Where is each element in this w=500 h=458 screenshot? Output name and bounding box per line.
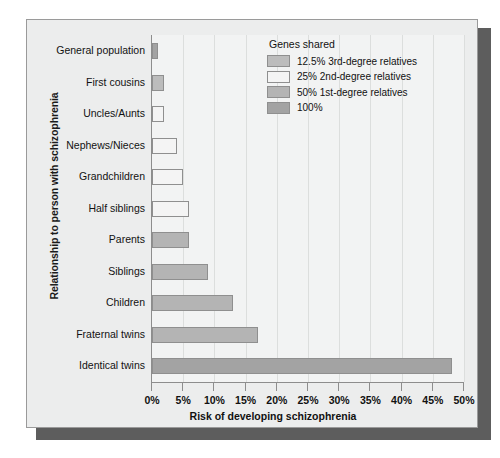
legend-item: 100%: [267, 102, 467, 114]
x-tick-label: 25%: [297, 394, 318, 406]
chart-row: Fraternal twins: [27, 319, 479, 351]
legend-swatch: [267, 71, 290, 83]
x-tick-label: 50%: [453, 394, 474, 406]
axis-tick: [401, 383, 402, 391]
chart-page: Relationship to person with schizophreni…: [0, 0, 500, 458]
bar: [152, 138, 177, 154]
x-tick-label: 20%: [266, 394, 287, 406]
category-label: Parents: [0, 224, 145, 256]
bar: [152, 201, 189, 217]
x-tick-label: 10%: [204, 394, 225, 406]
axis-tick: [432, 383, 433, 391]
chart-row: Nephews/Nieces: [27, 130, 479, 162]
legend-label: 12.5% 3rd-degree relatives: [297, 56, 417, 67]
x-tick-label: 30%: [329, 394, 350, 406]
bar: [152, 75, 164, 91]
axis-tick: [463, 383, 464, 391]
x-tick-label: 15%: [235, 394, 256, 406]
legend-swatch: [267, 86, 290, 98]
legend-items: 12.5% 3rd-degree relatives25% 2nd-degree…: [267, 55, 467, 114]
legend-label: 50% 1st-degree relatives: [297, 87, 408, 98]
category-label: Children: [0, 287, 145, 319]
legend-label: 25% 2nd-degree relatives: [297, 71, 411, 82]
bar: [152, 327, 258, 343]
category-label: Nephews/Nieces: [0, 130, 145, 162]
chart-row: Grandchildren: [27, 161, 479, 193]
chart-panel: Relationship to person with schizophreni…: [26, 19, 478, 428]
bar: [152, 358, 452, 374]
bar: [152, 43, 158, 59]
legend-item: 50% 1st-degree relatives: [267, 86, 467, 98]
legend-item: 25% 2nd-degree relatives: [267, 71, 467, 83]
axis-tick: [213, 383, 214, 391]
category-label: Fraternal twins: [0, 319, 145, 351]
legend-label: 100%: [297, 102, 323, 113]
category-label: Grandchildren: [0, 161, 145, 193]
axis-tick: [151, 383, 152, 391]
chart-row: Children: [27, 287, 479, 319]
x-tick-label: 0%: [144, 394, 159, 406]
category-label: Uncles/Aunts: [0, 98, 145, 130]
legend: Genes shared 12.5% 3rd-degree relatives2…: [267, 38, 467, 117]
bar: [152, 232, 189, 248]
legend-title: Genes shared: [267, 38, 467, 50]
chart-row: Identical twins: [27, 350, 479, 382]
axis-tick: [182, 383, 183, 391]
axis-tick: [276, 383, 277, 391]
axis-tick: [245, 383, 246, 391]
category-label: First cousins: [0, 67, 145, 99]
x-tick-label: 45%: [422, 394, 443, 406]
x-tick-label: 40%: [391, 394, 412, 406]
bar: [152, 169, 183, 185]
legend-item: 12.5% 3rd-degree relatives: [267, 55, 467, 67]
axis-tick: [369, 383, 370, 391]
category-label: Identical twins: [0, 350, 145, 382]
axis-tick: [307, 383, 308, 391]
bar: [152, 106, 164, 122]
category-label: General population: [0, 35, 145, 67]
chart-row: Half siblings: [27, 193, 479, 225]
x-axis-title: Risk of developing schizophrenia: [27, 410, 479, 422]
chart-row: Siblings: [27, 256, 479, 288]
bar: [152, 264, 208, 280]
chart-row: Parents: [27, 224, 479, 256]
axis-tick: [338, 383, 339, 391]
category-label: Siblings: [0, 256, 145, 288]
legend-swatch: [267, 55, 290, 67]
bar: [152, 295, 233, 311]
x-tick-label: 35%: [360, 394, 381, 406]
category-label: Half siblings: [0, 193, 145, 225]
plot-wrapper: Relationship to person with schizophreni…: [27, 20, 479, 429]
x-tick-label: 5%: [176, 394, 191, 406]
legend-swatch: [267, 102, 290, 114]
